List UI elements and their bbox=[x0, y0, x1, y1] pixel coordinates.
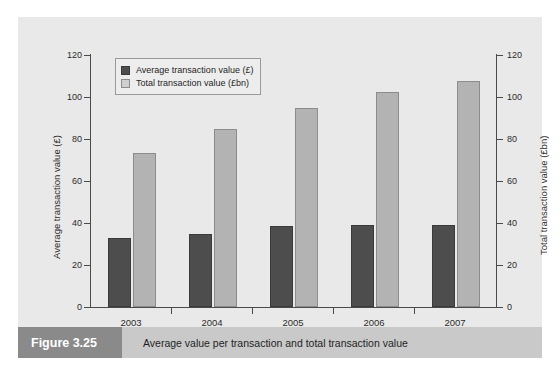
y-axis-right-tick-label: 80 bbox=[507, 135, 531, 144]
figure-container: Average transaction value (£) Total tran… bbox=[0, 0, 560, 375]
y-axis-right-tick-label: 120 bbox=[507, 51, 531, 60]
y-axis-left-tick bbox=[84, 265, 90, 266]
x-axis-line bbox=[90, 307, 497, 308]
y-axis-left-tick bbox=[84, 307, 90, 308]
y-axis-left-tick-label: 60 bbox=[58, 177, 82, 186]
y-axis-right-tick-label: 40 bbox=[507, 219, 531, 228]
y-axis-right-tick bbox=[497, 265, 503, 266]
bar-total-2003 bbox=[133, 153, 156, 307]
legend-label-total: Total transaction value (£bn) bbox=[136, 78, 249, 88]
y-axis-right-tick-label: 0 bbox=[507, 303, 531, 312]
y-axis-left-tick-label: 80 bbox=[58, 135, 82, 144]
y-axis-left-tick-label: 100 bbox=[58, 93, 82, 102]
legend-swatch-icon bbox=[121, 66, 130, 75]
bar-total-2007 bbox=[457, 81, 480, 307]
figure-number-tag: Figure 3.25 bbox=[18, 327, 122, 358]
x-axis-tick bbox=[252, 308, 253, 314]
y-axis-left-tick-label: 20 bbox=[58, 261, 82, 270]
bar-total-2005 bbox=[295, 108, 318, 308]
y-axis-left-title: Average transaction value (£) bbox=[51, 135, 62, 259]
y-axis-right-title: Total transaction value (£bn) bbox=[538, 136, 549, 255]
x-axis-tick bbox=[414, 308, 415, 314]
figure-caption: Average value per transaction and total … bbox=[143, 327, 408, 358]
y-axis-right-tick-label: 20 bbox=[507, 261, 531, 270]
bar-average-2005 bbox=[270, 226, 293, 307]
chart-legend: Average transaction value (£) Total tran… bbox=[115, 58, 261, 95]
y-axis-left-tick-label: 0 bbox=[58, 303, 82, 312]
legend-swatch-icon bbox=[121, 79, 130, 88]
y-axis-right-tick-label: 60 bbox=[507, 177, 531, 186]
y-axis-left-tick bbox=[84, 223, 90, 224]
y-axis-right-tick-label: 100 bbox=[507, 93, 531, 102]
y-axis-right-tick bbox=[497, 307, 503, 308]
y-axis-left-tick bbox=[84, 55, 90, 56]
y-axis-left-tick-label: 40 bbox=[58, 219, 82, 228]
y-axis-right-tick bbox=[497, 139, 503, 140]
bar-total-2006 bbox=[376, 92, 399, 307]
y-axis-right-tick bbox=[497, 55, 503, 56]
bar-average-2007 bbox=[432, 225, 455, 307]
bar-average-2003 bbox=[108, 238, 131, 307]
x-axis-tick bbox=[333, 308, 334, 314]
legend-label-average: Average transaction value (£) bbox=[136, 65, 253, 75]
x-axis-tick bbox=[171, 308, 172, 314]
figure-caption-bar: Figure 3.25 Average value per transactio… bbox=[18, 327, 542, 358]
y-axis-left-tick bbox=[84, 97, 90, 98]
bar-total-2004 bbox=[214, 129, 237, 308]
y-axis-left-tick-label: 120 bbox=[58, 51, 82, 60]
y-axis-left-tick bbox=[84, 139, 90, 140]
chart-panel: Average transaction value (£) Total tran… bbox=[18, 17, 542, 358]
bar-average-2004 bbox=[189, 234, 212, 308]
y-axis-right-tick bbox=[497, 181, 503, 182]
bar-average-2006 bbox=[351, 225, 374, 307]
legend-item-average: Average transaction value (£) bbox=[121, 64, 253, 76]
y-axis-right-tick bbox=[497, 97, 503, 98]
y-axis-right-tick bbox=[497, 223, 503, 224]
y-axis-left-tick bbox=[84, 181, 90, 182]
legend-item-total: Total transaction value (£bn) bbox=[121, 77, 253, 89]
